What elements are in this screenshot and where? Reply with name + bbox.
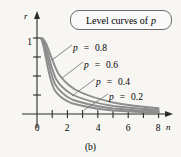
x-tick-label-6: 6 <box>122 117 134 135</box>
curve-label-p-06-value: 0.6 <box>106 60 118 70</box>
y-axis-label: r <box>24 5 28 23</box>
curve-label-p-02-equals: = <box>120 92 125 102</box>
curve-label-p-08-equals: = <box>84 43 89 53</box>
curve-label-p-08-value: 0.8 <box>95 43 107 53</box>
x-tick-label-0: 0 <box>31 117 43 135</box>
leader-line-p-08 <box>52 45 72 60</box>
curve-label-p-08: p = 0.8 <box>73 37 107 55</box>
curve-label-p-02: p = 0.2 <box>109 86 143 104</box>
x-tick-label-2: 2 <box>61 117 73 135</box>
x-axis-label: n <box>166 116 171 134</box>
curve-label-p-06-symbol: p <box>84 60 89 70</box>
curve-label-p-02-value: 0.2 <box>131 92 143 102</box>
leader-line-p-06 <box>62 62 83 78</box>
curve-label-p-02-symbol: p <box>109 92 114 102</box>
curve-label-p-04-symbol: p <box>96 77 101 87</box>
curve-label-p-08-symbol: p <box>73 43 78 53</box>
level-curves-figure: Level curves of p r n 0 2 4 6 8 1 p = 0.… <box>0 0 181 157</box>
curve-label-p-06: p = 0.6 <box>84 54 118 72</box>
y-axis-arrow-icon <box>34 11 40 19</box>
x-tick-label-8: 8 <box>152 117 164 135</box>
title-prefix: Level curves of <box>86 15 148 26</box>
y-tick-label-1: 1 <box>22 31 32 49</box>
curve-label-p-06-equals: = <box>95 60 100 70</box>
title-label: Level curves of p <box>70 10 172 30</box>
x-tick-label-4: 4 <box>92 117 104 135</box>
title-variable: p <box>151 15 156 26</box>
figure-caption: (b) <box>0 136 181 154</box>
